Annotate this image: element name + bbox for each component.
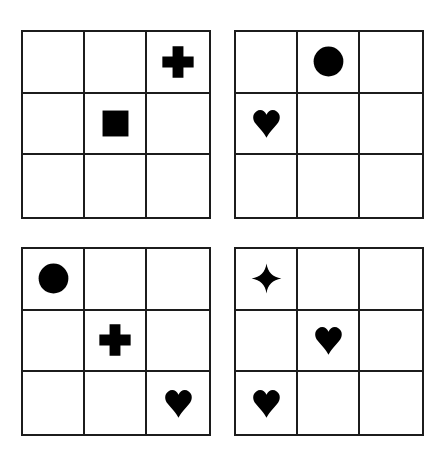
grid-top-left-cell-r2-c2[interactable] [147, 155, 209, 217]
grid-top-left-cell-r2-c0[interactable] [23, 155, 85, 217]
grid-bottom-left-cell-r2-c2[interactable] [147, 372, 209, 434]
grid-top-left-cell-r1-c1[interactable] [85, 94, 147, 156]
grid-bottom-right-cell-r0-c0[interactable] [236, 249, 298, 311]
grid-top-right-cell-r0-c1[interactable] [298, 32, 360, 94]
grid-bottom-left-cell-r2-c1[interactable] [85, 372, 147, 434]
grid-bottom-left-cell-r0-c1[interactable] [85, 249, 147, 311]
plus-icon [98, 323, 132, 357]
grid-bottom-left-cell-r2-c0[interactable] [23, 372, 85, 434]
heart-icon [313, 325, 344, 356]
grid-top-right [234, 30, 424, 219]
square-icon [102, 110, 129, 137]
grid-top-left-cell-r0-c2[interactable] [147, 32, 209, 94]
grid-top-right-cell-r1-c2[interactable] [360, 94, 422, 156]
circle-icon [38, 263, 69, 294]
grid-top-left [21, 30, 211, 219]
grid-top-left-cell-r0-c1[interactable] [85, 32, 147, 94]
heart-icon [251, 108, 282, 139]
grid-bottom-right-cell-r0-c1[interactable] [298, 249, 360, 311]
grid-top-right-cell-r0-c0[interactable] [236, 32, 298, 94]
grid-bottom-right-cell-r0-c2[interactable] [360, 249, 422, 311]
grid-bottom-right [234, 247, 424, 436]
grid-top-left-cell-r0-c0[interactable] [23, 32, 85, 94]
grid-top-right-cell-r2-c2[interactable] [360, 155, 422, 217]
heart-icon [251, 388, 282, 419]
grid-bottom-left [21, 247, 211, 436]
four-point-star-icon [251, 263, 282, 294]
grid-top-right-cell-r1-c1[interactable] [298, 94, 360, 156]
grid-bottom-right-cell-r2-c1[interactable] [298, 372, 360, 434]
grid-bottom-left-cell-r0-c2[interactable] [147, 249, 209, 311]
grid-top-right-cell-r2-c0[interactable] [236, 155, 298, 217]
grid-bottom-left-cell-r1-c1[interactable] [85, 311, 147, 373]
shape-grid-canvas [0, 0, 448, 454]
grid-bottom-right-cell-r1-c2[interactable] [360, 311, 422, 373]
heart-icon [163, 388, 194, 419]
grid-bottom-right-cell-r1-c0[interactable] [236, 311, 298, 373]
grid-top-left-cell-r1-c2[interactable] [147, 94, 209, 156]
grid-bottom-left-cell-r1-c2[interactable] [147, 311, 209, 373]
grid-bottom-right-cell-r2-c0[interactable] [236, 372, 298, 434]
grid-bottom-right-cell-r2-c2[interactable] [360, 372, 422, 434]
grid-bottom-right-cell-r1-c1[interactable] [298, 311, 360, 373]
plus-icon [161, 45, 195, 79]
grid-bottom-left-cell-r0-c0[interactable] [23, 249, 85, 311]
grid-top-right-cell-r2-c1[interactable] [298, 155, 360, 217]
grid-top-left-cell-r1-c0[interactable] [23, 94, 85, 156]
grid-top-right-cell-r1-c0[interactable] [236, 94, 298, 156]
grid-top-left-cell-r2-c1[interactable] [85, 155, 147, 217]
circle-icon [313, 46, 344, 77]
grid-top-right-cell-r0-c2[interactable] [360, 32, 422, 94]
grid-bottom-left-cell-r1-c0[interactable] [23, 311, 85, 373]
